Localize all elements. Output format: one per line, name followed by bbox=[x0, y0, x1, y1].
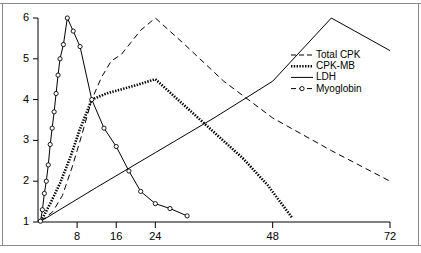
legend-label-ldh: LDH bbox=[316, 72, 336, 82]
legend-label-total-cpk: Total CPK bbox=[316, 50, 360, 60]
data-point-marker bbox=[40, 208, 44, 212]
data-point-marker bbox=[65, 16, 69, 20]
data-point-marker bbox=[127, 169, 131, 173]
legend-label-myoglobin: Myoglobin bbox=[316, 84, 362, 94]
data-point-marker bbox=[58, 57, 62, 61]
y-tick-label: 6 bbox=[15, 12, 29, 23]
y-tick-marks bbox=[33, 18, 38, 222]
data-point-marker bbox=[38, 219, 42, 223]
data-point-marker bbox=[185, 214, 189, 218]
x-tick-label: 16 bbox=[104, 231, 128, 242]
y-tick-label: 3 bbox=[15, 134, 29, 145]
series-line-myoglobin bbox=[40, 18, 187, 221]
y-tick-label: 5 bbox=[15, 53, 29, 64]
data-point-marker bbox=[50, 126, 54, 130]
data-series-group bbox=[38, 16, 390, 223]
data-point-marker bbox=[71, 29, 75, 33]
legend-line-samples bbox=[291, 55, 313, 91]
legend-label-cpk-mb: CPK-MB bbox=[316, 61, 355, 71]
y-tick-label: 2 bbox=[15, 175, 29, 186]
x-tick-label: 72 bbox=[378, 231, 402, 242]
data-point-marker bbox=[139, 189, 143, 193]
data-point-marker bbox=[102, 126, 106, 130]
data-point-marker bbox=[153, 202, 157, 206]
x-tick-label: 48 bbox=[261, 231, 285, 242]
data-point-marker bbox=[42, 191, 46, 195]
legend-marker-myoglobin bbox=[300, 87, 304, 91]
data-point-marker bbox=[78, 44, 82, 48]
chart-figure: 123456 816244872 Total CPKCPK-MBLDHMyogl… bbox=[0, 0, 421, 253]
x-tick-label: 24 bbox=[143, 231, 167, 242]
data-point-marker bbox=[48, 142, 52, 146]
data-point-marker bbox=[46, 163, 50, 167]
y-tick-label: 1 bbox=[15, 216, 29, 227]
data-point-marker bbox=[61, 42, 65, 46]
x-tick-label: 8 bbox=[65, 231, 89, 242]
data-point-marker bbox=[56, 73, 60, 77]
y-tick-label: 4 bbox=[15, 94, 29, 105]
data-point-marker bbox=[54, 91, 58, 95]
plot-area bbox=[0, 0, 421, 253]
data-point-marker bbox=[52, 110, 56, 114]
data-point-marker bbox=[114, 144, 118, 148]
data-point-marker bbox=[168, 206, 172, 210]
data-point-marker bbox=[44, 179, 48, 183]
data-point-marker bbox=[90, 98, 94, 102]
x-tick-marks bbox=[77, 222, 390, 228]
series-line-cpk-mb bbox=[41, 79, 292, 221]
